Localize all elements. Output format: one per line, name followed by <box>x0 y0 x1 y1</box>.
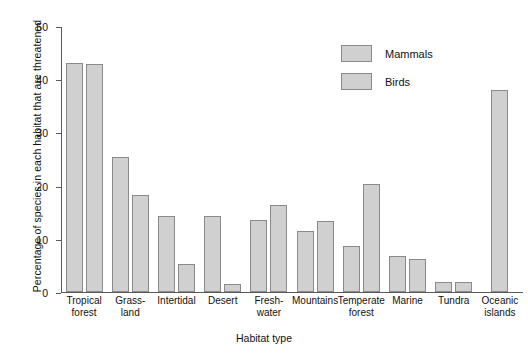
legend-swatch-mammals <box>341 45 372 62</box>
x-axis-title: Habitat type <box>0 332 528 344</box>
y-tick-10: 10 <box>56 240 61 241</box>
bar-birds-8 <box>455 282 472 292</box>
y-tick-label-20: 20 <box>36 181 48 193</box>
bar-mammals-7 <box>389 256 406 292</box>
y-tick-20: 20 <box>56 187 61 188</box>
y-tick-50: 50 <box>56 27 61 28</box>
legend-item-mammals: Mammals <box>341 45 433 62</box>
legend-item-birds: Birds <box>341 73 433 90</box>
bar-mammals-8 <box>435 282 452 292</box>
x-category-label-9: Oceanic islands <box>471 295 528 318</box>
bar-mammals-3 <box>204 216 221 292</box>
y-tick-label-10: 10 <box>36 234 48 246</box>
bar-mammals-5 <box>297 231 314 292</box>
y-axis-title: Percentage of species in each habitat th… <box>31 11 43 301</box>
y-tick-label-30: 30 <box>36 127 48 139</box>
y-axis-line <box>61 27 62 293</box>
x-axis-line <box>61 292 523 293</box>
y-tick-label-0: 0 <box>42 287 48 299</box>
y-tick-0: 0 <box>56 293 61 294</box>
bar-birds-7 <box>409 259 426 292</box>
bar-mammals-4 <box>250 220 267 292</box>
bar-mammals-1 <box>112 157 129 292</box>
y-tick-label-40: 40 <box>36 74 48 86</box>
bar-mammals-2 <box>158 216 175 292</box>
bar-birds-2 <box>178 264 195 292</box>
legend: Mammals Birds <box>341 45 433 101</box>
bar-birds-0 <box>86 64 103 292</box>
bar-chart: Percentage of species in each habitat th… <box>0 0 528 357</box>
bar-birds-4 <box>270 205 287 292</box>
bar-mammals-6 <box>343 246 360 292</box>
bar-birds-9 <box>491 90 508 292</box>
bar-birds-1 <box>132 195 149 292</box>
bar-birds-6 <box>363 184 380 292</box>
y-tick-label-50: 50 <box>36 21 48 33</box>
bar-birds-5 <box>317 221 334 292</box>
y-tick-40: 40 <box>56 80 61 81</box>
bar-mammals-0 <box>66 63 83 292</box>
plot-area: 01020304050 Tropical forestGrass- landIn… <box>61 27 523 293</box>
legend-swatch-birds <box>341 73 372 90</box>
legend-label-mammals: Mammals <box>385 48 433 60</box>
bar-birds-3 <box>224 284 241 292</box>
legend-label-birds: Birds <box>385 76 410 88</box>
y-tick-30: 30 <box>56 133 61 134</box>
